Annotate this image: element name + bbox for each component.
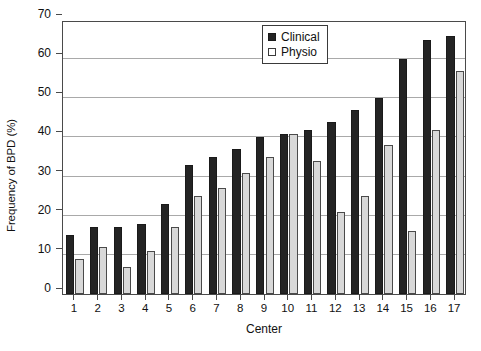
x-tick-mark [240,295,241,300]
bar-physio-center-16 [432,130,440,294]
x-tick-13: 13 [346,295,372,314]
y-tick-50: 50 [38,85,62,99]
x-tick-label: 15 [394,302,420,314]
y-tick-40: 40 [38,124,62,138]
y-tick-30: 30 [38,164,62,178]
x-tick-label: 13 [346,302,372,314]
y-tick-70: 70 [38,7,62,21]
x-tick-15: 15 [394,295,420,314]
x-tick-label: 8 [227,302,253,314]
x-tick-mark [145,295,146,300]
x-tick-mark [311,295,312,300]
x-tick-mark [97,295,98,300]
x-tick-mark [430,295,431,300]
x-axis-ticks: 1234567891011121314151617 [62,295,466,319]
bar-physio-center-17 [456,71,464,294]
x-tick-label: 9 [251,302,277,314]
bar-clinical-center-5 [161,204,169,294]
bar-clinical-center-17 [446,36,454,294]
bar-physio-center-2 [99,247,107,294]
x-tick-mark [168,295,169,300]
x-tick-1: 1 [61,295,87,314]
x-tick-mark [382,295,383,300]
bar-physio-center-7 [218,188,226,294]
bar-clinical-center-15 [399,59,407,294]
bar-clinical-center-11 [304,130,312,294]
y-tick-0: 0 [44,281,62,295]
bar-clinical-center-13 [351,110,359,294]
x-tick-16: 16 [417,295,443,314]
legend-label: Clinical [281,30,320,44]
bar-clinical-center-12 [327,122,335,294]
y-tick-label: 0 [44,281,56,295]
bar-physio-center-10 [289,134,297,294]
y-tick-label: 50 [38,85,56,99]
bar-physio-center-8 [242,173,250,294]
y-tick-label: 60 [38,46,56,60]
x-tick-label: 16 [417,302,443,314]
x-tick-label: 6 [180,302,206,314]
chart-legend: ClinicalPhysio [262,25,328,64]
x-tick-5: 5 [156,295,182,314]
x-tick-mark [406,295,407,300]
x-tick-4: 4 [132,295,158,314]
y-tick-60: 60 [38,46,62,60]
x-tick-10: 10 [275,295,301,314]
x-tick-12: 12 [322,295,348,314]
bar-physio-center-9 [266,157,274,294]
bar-physio-center-12 [337,212,345,294]
bar-clinical-center-16 [423,40,431,294]
bar-clinical-center-2 [90,227,98,294]
x-tick-label: 14 [370,302,396,314]
x-tick-mark [264,295,265,300]
bar-physio-center-11 [313,161,321,294]
x-tick-6: 6 [180,295,206,314]
x-tick-17: 17 [441,295,467,314]
bar-physio-center-3 [123,267,131,294]
bar-chart: Frequency of BPD (%) 010203040506070 123… [0,0,481,351]
x-tick-8: 8 [227,295,253,314]
x-tick-label: 17 [441,302,467,314]
bar-clinical-center-14 [375,98,383,294]
x-tick-mark [287,295,288,300]
x-tick-label: 2 [85,302,111,314]
y-axis-ticks: 010203040506070 [0,21,62,295]
x-tick-label: 1 [61,302,87,314]
bar-physio-center-5 [171,227,179,294]
y-tick-10: 10 [38,242,62,256]
bar-clinical-center-10 [280,134,288,294]
bar-physio-center-4 [147,251,155,294]
bar-clinical-center-3 [114,227,122,294]
legend-swatch-icon-physio [268,48,276,56]
x-tick-3: 3 [108,295,134,314]
bar-clinical-center-4 [137,224,145,294]
y-tick-20: 20 [38,203,62,217]
bar-clinical-center-7 [209,157,217,294]
x-tick-mark [192,295,193,300]
x-tick-label: 12 [322,302,348,314]
y-tick-label: 40 [38,124,56,138]
x-tick-label: 5 [156,302,182,314]
x-tick-14: 14 [370,295,396,314]
x-tick-label: 10 [275,302,301,314]
bar-clinical-center-6 [185,165,193,294]
x-tick-7: 7 [203,295,229,314]
x-tick-mark [73,295,74,300]
bar-physio-center-13 [361,196,369,294]
x-tick-label: 11 [299,302,325,314]
bar-physio-center-1 [75,259,83,294]
y-tick-label: 70 [38,7,56,21]
bar-clinical-center-1 [66,235,74,294]
x-tick-label: 4 [132,302,158,314]
legend-item-clinical[interactable]: Clinical [268,29,320,44]
legend-item-physio[interactable]: Physio [268,44,320,59]
x-tick-label: 7 [203,302,229,314]
bar-clinical-center-9 [256,137,264,294]
x-tick-mark [454,295,455,300]
bar-physio-center-15 [408,231,416,294]
x-tick-mark [359,295,360,300]
x-tick-9: 9 [251,295,277,314]
y-tick-label: 10 [38,242,56,256]
legend-swatch-icon-clinical [268,33,276,41]
bar-clinical-center-8 [232,149,240,294]
